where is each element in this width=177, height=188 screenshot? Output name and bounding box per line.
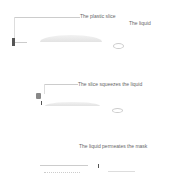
mask-shape bbox=[40, 35, 102, 42]
liquid-drop-icon bbox=[113, 43, 124, 49]
liquid-drop-icon bbox=[112, 108, 123, 113]
liquid-spread bbox=[108, 171, 135, 172]
permeation-dots bbox=[44, 172, 80, 173]
slice-leader-line bbox=[14, 17, 80, 18]
mask-shape bbox=[45, 102, 100, 106]
plastic-slice-icon bbox=[41, 101, 42, 105]
slice-leader-vertical bbox=[14, 17, 15, 39]
plastic-slice-icon bbox=[98, 164, 99, 168]
slice-label: The plastic slice bbox=[80, 13, 116, 19]
liquid-label: The liquid bbox=[129, 20, 151, 26]
permeate-caption: The liquid permeates the mask bbox=[79, 143, 147, 149]
caption-leader-vertical bbox=[44, 84, 45, 94]
caption-leader-line bbox=[44, 84, 78, 85]
squeeze-caption: The slice squeezes the liquid bbox=[78, 81, 142, 87]
mask-flat bbox=[40, 165, 88, 166]
press-arrow-icon bbox=[36, 93, 41, 99]
slice-base-line bbox=[15, 42, 27, 43]
